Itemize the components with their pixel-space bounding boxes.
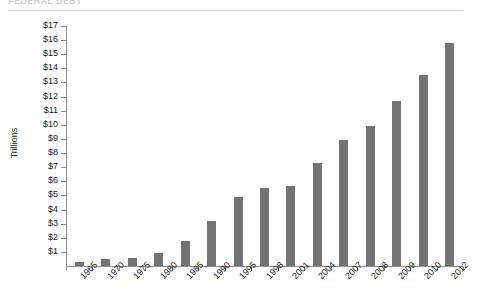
- y-axis-tick-label: $14: [18, 63, 58, 72]
- bar[interactable]: [366, 126, 375, 266]
- bar[interactable]: [154, 253, 163, 266]
- y-axis-tick-label: $13: [18, 77, 58, 86]
- bar[interactable]: [313, 163, 322, 266]
- bar[interactable]: [181, 241, 190, 266]
- bar[interactable]: [286, 186, 295, 266]
- y-axis-tick-label: $3: [18, 219, 58, 228]
- y-axis-tick-label: $2: [18, 233, 58, 242]
- x-axis-tick: [66, 267, 67, 271]
- bar[interactable]: [128, 258, 137, 266]
- bar[interactable]: [260, 188, 269, 266]
- bar[interactable]: [75, 262, 84, 266]
- y-axis-tick-label: $1: [18, 247, 58, 256]
- bar[interactable]: [101, 259, 110, 266]
- bar[interactable]: [419, 75, 428, 266]
- y-axis-tick-label: $7: [18, 162, 58, 171]
- y-axis-tick-label: $11: [18, 106, 58, 115]
- bar[interactable]: [339, 140, 348, 266]
- y-axis-tick-label: $4: [18, 205, 58, 214]
- bar[interactable]: [445, 43, 454, 266]
- y-axis-tick-label: $12: [18, 92, 58, 101]
- y-axis-tick-label: $10: [18, 120, 58, 129]
- y-axis-tick-label: $8: [18, 148, 58, 157]
- y-axis-tick-label: $15: [18, 49, 58, 58]
- y-axis-tick-label: $6: [18, 176, 58, 185]
- bar-series: [66, 26, 463, 267]
- y-axis-tick-label: $16: [18, 35, 58, 44]
- header-divider: [8, 10, 463, 11]
- page-heading: FEDERAL DEBT: [8, 0, 208, 7]
- bar[interactable]: [234, 197, 243, 266]
- bar[interactable]: [207, 221, 216, 266]
- chart-page: FEDERAL DEBT Trillions $1$2$3$4$5$6$7$8$…: [0, 0, 481, 306]
- bar[interactable]: [392, 101, 401, 266]
- y-axis-tick-label: $5: [18, 190, 58, 199]
- y-axis-tick-label: $9: [18, 134, 58, 143]
- y-axis-tick-label: $17: [18, 21, 58, 30]
